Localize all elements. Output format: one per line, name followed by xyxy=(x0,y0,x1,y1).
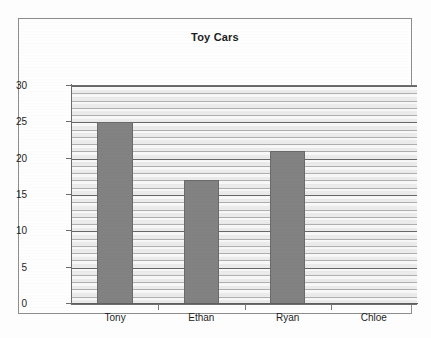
y-tick-label: 0 xyxy=(3,298,27,309)
bar-ethan xyxy=(184,180,219,304)
bar-tony xyxy=(97,122,132,304)
x-tick-label: Ryan xyxy=(245,312,331,323)
y-tick-mark xyxy=(66,267,72,268)
x-tick-label: Tony xyxy=(72,312,158,323)
x-tick-mark xyxy=(158,304,159,310)
y-tick-label: 10 xyxy=(3,225,27,236)
x-tick-label: Chloe xyxy=(331,312,417,323)
plot-area xyxy=(72,85,417,305)
y-tick-label: 20 xyxy=(3,152,27,163)
y-tick-label: 25 xyxy=(3,116,27,127)
y-tick-label: 5 xyxy=(3,261,27,272)
y-tick-mark xyxy=(66,303,72,304)
bar-ryan xyxy=(270,151,305,304)
y-tick-mark xyxy=(66,158,72,159)
y-tick-label: 30 xyxy=(3,80,27,91)
x-tick-label: Ethan xyxy=(158,312,244,323)
y-tick-label: 15 xyxy=(3,189,27,200)
y-tick-mark xyxy=(66,85,72,86)
y-tick-mark xyxy=(66,194,72,195)
y-tick-mark xyxy=(66,121,72,122)
x-tick-mark xyxy=(331,304,332,310)
x-tick-mark xyxy=(245,304,246,310)
chart-frame: Toy Cars 051015202530 TonyEthanRyanChloe xyxy=(18,18,412,314)
y-tick-mark xyxy=(66,230,72,231)
chart-screenshot: Toy Cars 051015202530 TonyEthanRyanChloe xyxy=(0,0,431,338)
chart-title: Toy Cars xyxy=(19,31,411,43)
